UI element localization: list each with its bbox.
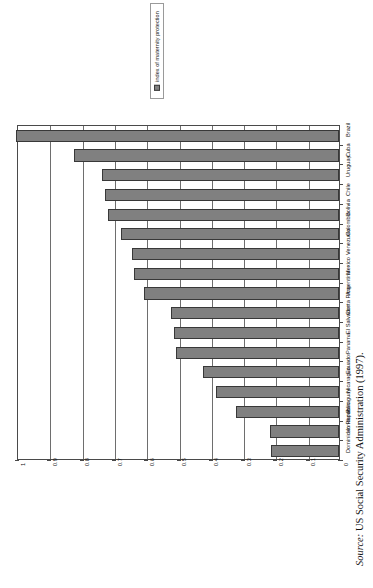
category-tick	[340, 164, 343, 165]
bar	[16, 130, 339, 142]
bar	[108, 209, 339, 221]
legend-label: index of maternity protection	[154, 11, 160, 82]
bar	[174, 327, 339, 339]
value-axis-tick	[177, 460, 181, 461]
category-tick	[340, 263, 343, 264]
source-text: US Social Security Administration (1997)…	[354, 352, 365, 533]
value-axis-tick	[15, 460, 19, 461]
bar	[176, 347, 339, 359]
category-label: El Salvador	[345, 305, 351, 334]
value-axis-label: 0.9	[52, 458, 58, 466]
chart-plot-area	[17, 125, 340, 460]
value-axis-label: 1	[20, 463, 26, 466]
value-axis-label: 0.8	[84, 458, 90, 466]
value-axis-tick	[273, 460, 277, 461]
value-axis-tick	[241, 460, 245, 461]
chart-legend: index of maternity protection	[150, 3, 164, 99]
value-axis-label: 0.7	[117, 458, 123, 466]
value-axis-label: 0.6	[149, 458, 155, 466]
category-tick	[340, 283, 343, 284]
value-axis-label: 0.1	[310, 458, 316, 466]
bar	[132, 248, 339, 260]
category-tick	[340, 224, 343, 225]
bar	[134, 268, 339, 280]
bar	[270, 425, 339, 437]
category-label: Dominican Republic	[345, 402, 351, 453]
category-label: Panama	[345, 333, 351, 354]
value-axis-label: 0.4	[213, 458, 219, 466]
category-tick	[340, 361, 343, 362]
bar	[203, 366, 339, 378]
category-tick	[340, 302, 343, 303]
value-axis-label: 0	[343, 463, 349, 466]
bar	[121, 228, 339, 240]
bar	[74, 149, 339, 161]
category-tick	[340, 342, 343, 343]
gridline	[83, 126, 84, 459]
bar	[102, 169, 339, 181]
category-tick	[340, 204, 343, 205]
legend-swatch-icon	[154, 85, 160, 91]
gridline	[50, 126, 51, 459]
source-prefix: Source:	[354, 534, 365, 566]
value-axis-tick	[47, 460, 51, 461]
category-label: Venezuela	[345, 229, 351, 256]
value-axis-tick	[144, 460, 148, 461]
category-tick	[340, 145, 343, 146]
bar	[216, 386, 339, 398]
category-label: Chile	[345, 183, 351, 196]
category-tick	[340, 421, 343, 422]
category-tick	[340, 440, 343, 441]
value-axis-tick	[80, 460, 84, 461]
value-axis-tick	[112, 460, 116, 461]
bar	[105, 189, 339, 201]
category-tick	[340, 243, 343, 244]
source-caption: Source: US Social Security Administratio…	[354, 352, 365, 566]
category-label: Brazil	[345, 123, 351, 137]
category-tick	[340, 381, 343, 382]
value-axis-label: 0.3	[246, 458, 252, 466]
value-axis-label: 0.5	[181, 458, 187, 466]
legend-entry: index of maternity protection	[154, 11, 160, 91]
bar	[144, 287, 339, 299]
category-tick	[340, 401, 343, 402]
category-tick	[340, 322, 343, 323]
bar	[236, 406, 339, 418]
category-tick	[340, 460, 343, 461]
category-tick	[340, 184, 343, 185]
bar	[271, 445, 339, 457]
value-axis-label: 0.2	[278, 458, 284, 466]
bar	[171, 307, 339, 319]
category-label: Uruguay	[345, 155, 351, 177]
